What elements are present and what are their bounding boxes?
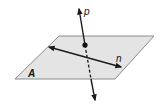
label-n: n xyxy=(116,53,122,64)
intersection-point xyxy=(82,42,87,47)
line-p-lower xyxy=(91,79,95,100)
label-plane-a: A xyxy=(27,68,35,79)
geometry-diagram: p n A xyxy=(0,0,163,107)
label-p: p xyxy=(83,6,90,17)
